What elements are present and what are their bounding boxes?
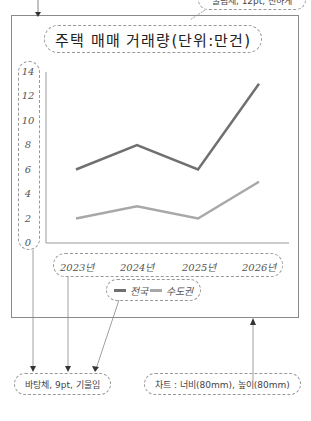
x-tick: 2026년: [242, 259, 276, 274]
plot-area: [0, 0, 311, 421]
legend-label-national: 전국: [130, 283, 148, 298]
x-tick: 2023년: [60, 259, 94, 274]
legend: 전국 수도권: [106, 279, 201, 301]
x-tick: 2024년: [120, 259, 154, 274]
legend-label-capital: 수도권: [166, 283, 193, 298]
chart-size-note: 차트 : 너비(80mm), 높이(80mm): [144, 373, 301, 395]
axis-font-note: 바탕체, 9pt, 기울임: [14, 373, 111, 395]
x-tick: 2025년: [182, 259, 216, 274]
legend-swatch-national: [114, 289, 126, 292]
legend-swatch-capital: [150, 289, 162, 292]
